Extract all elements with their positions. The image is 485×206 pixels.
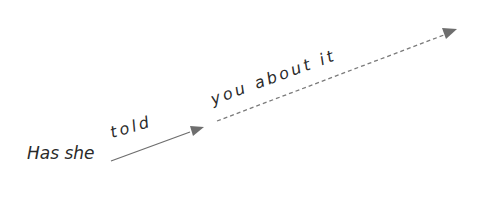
intonation-diagram: Has she told you about it [0, 0, 485, 206]
start-text: Has she [27, 143, 95, 163]
rise-word-text: told [108, 112, 154, 142]
